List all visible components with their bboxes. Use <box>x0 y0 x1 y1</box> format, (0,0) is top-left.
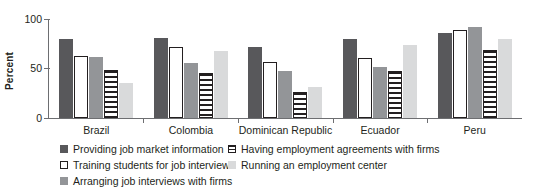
bar-group-colombia <box>144 19 239 118</box>
legend-item-having-employment-agreements-with-firms: Having employment agreements with firms <box>228 141 478 157</box>
bar-colombia-providing-job-market-information <box>154 38 168 118</box>
y-tick-label-100: 100 <box>16 13 42 25</box>
x-label-colombia: Colombia <box>144 124 239 140</box>
bar-peru-training-students-for-job-interviews <box>453 30 467 118</box>
bar-peru-running-an-employment-center <box>498 39 512 118</box>
legend-item-running-an-employment-center: Running an employment center <box>228 157 478 173</box>
bar-group-ecuador <box>333 19 428 118</box>
bar-dominican-republic-arranging-job-interviews-with-firms <box>278 71 292 119</box>
bar-ecuador-providing-job-market-information <box>343 39 357 118</box>
x-tick-mark-2 <box>238 118 239 123</box>
bar-ecuador-running-an-employment-center <box>403 45 417 118</box>
bar-chart: Percent 100 50 0 <box>0 0 535 195</box>
legend-label: Providing job market information <box>73 143 224 155</box>
y-axis-title: Percent <box>2 36 16 106</box>
legend-label: Having employment agreements with firms <box>241 143 439 155</box>
bar-group-dominican-republic <box>238 19 333 118</box>
bar-dominican-republic-providing-job-market-information <box>248 47 262 118</box>
bar-peru-arranging-job-interviews-with-firms <box>468 27 482 118</box>
outlined-white-swatch-icon <box>60 161 68 169</box>
y-tick-label-50: 50 <box>16 62 42 74</box>
bar-group-brazil <box>49 19 144 118</box>
y-tick-label-0: 0 <box>16 112 42 124</box>
x-tick-mark-4 <box>427 118 428 123</box>
bar-dominican-republic-running-an-employment-center <box>308 87 322 118</box>
solid-dark-swatch-icon <box>60 145 68 153</box>
x-label-ecuador: Ecuador <box>333 124 428 140</box>
x-label-dominican-republic: Dominican Republic <box>238 124 333 140</box>
legend-label: Training students for job interviews <box>73 159 235 171</box>
bar-colombia-training-students-for-job-interviews <box>169 47 183 118</box>
legend-label: Arranging job interviews with firms <box>73 175 232 187</box>
bar-ecuador-training-students-for-job-interviews <box>358 58 372 118</box>
bar-brazil-providing-job-market-information <box>59 39 73 118</box>
x-axis-labels: Brazil Colombia Dominican Republic Ecuad… <box>49 124 522 140</box>
bar-brazil-training-students-for-job-interviews <box>74 56 88 118</box>
chart-legend: Providing job market information Having … <box>60 141 530 193</box>
legend-label: Running an employment center <box>241 159 387 171</box>
legend-row-1: Providing job market information Having … <box>60 141 530 157</box>
mid-gray-swatch-icon <box>60 177 68 185</box>
bar-groups <box>49 19 522 118</box>
legend-item-training-students-for-job-interviews: Training students for job interviews <box>60 157 228 173</box>
bar-colombia-arranging-job-interviews-with-firms <box>184 63 198 118</box>
legend-item-providing-job-market-information: Providing job market information <box>60 141 228 157</box>
bar-brazil-having-employment-agreements-with-firms <box>104 70 118 119</box>
x-tick-mark-1 <box>143 118 144 123</box>
bar-peru-providing-job-market-information <box>438 33 452 118</box>
bar-dominican-republic-training-students-for-job-interviews <box>263 62 277 118</box>
plot-area: Percent 100 50 0 <box>0 0 535 140</box>
legend-item-arranging-job-interviews-with-firms: Arranging job interviews with firms <box>60 173 228 189</box>
x-label-brazil: Brazil <box>49 124 144 140</box>
bar-brazil-running-an-employment-center <box>119 83 133 118</box>
bar-colombia-having-employment-agreements-with-firms <box>199 73 213 119</box>
bar-brazil-arranging-job-interviews-with-firms <box>89 57 103 118</box>
bar-colombia-running-an-employment-center <box>214 51 228 118</box>
x-label-peru: Peru <box>427 124 522 140</box>
bar-ecuador-arranging-job-interviews-with-firms <box>373 67 387 119</box>
bar-ecuador-having-employment-agreements-with-firms <box>388 71 402 119</box>
bar-peru-having-employment-agreements-with-firms <box>483 50 497 118</box>
legend-row-3: Arranging job interviews with firms <box>60 173 530 189</box>
bar-dominican-republic-having-employment-agreements-with-firms <box>293 92 307 118</box>
x-tick-mark-3 <box>333 118 334 123</box>
legend-row-2: Training students for job interviews Run… <box>60 157 530 173</box>
bar-group-peru <box>427 19 522 118</box>
striped-swatch-icon <box>228 145 236 153</box>
light-gray-swatch-icon <box>228 161 236 169</box>
